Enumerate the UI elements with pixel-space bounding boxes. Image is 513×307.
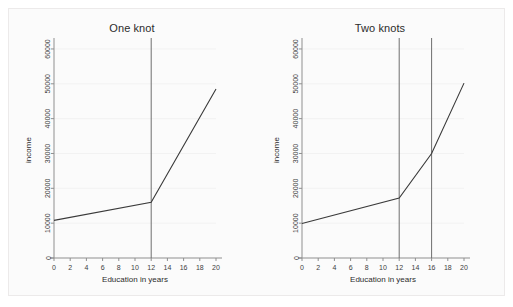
x-tick-label: 12	[147, 264, 155, 271]
x-tick-label: 8	[365, 264, 369, 271]
y-axis-title: income	[24, 137, 33, 163]
y-tick-label: 50000	[45, 74, 52, 94]
x-tick-label: 4	[332, 264, 336, 271]
x-tick-label: 2	[316, 264, 320, 271]
y-tick-label: 40000	[293, 109, 300, 129]
x-axis-title: Education in years	[102, 275, 168, 284]
y-tick-label: 10000	[293, 213, 300, 233]
x-tick-label: 10	[379, 264, 387, 271]
x-tick-label: 14	[412, 264, 420, 271]
x-tick-label: 20	[460, 264, 468, 271]
x-tick-label: 14	[164, 264, 172, 271]
y-tick-label: 30000	[293, 144, 300, 164]
plot-area-one-knot: 0100002000030000400005000060000income024…	[8, 8, 256, 296]
x-tick-label: 2	[68, 264, 72, 271]
plot-area-two-knots: 0100002000030000400005000060000income024…	[256, 8, 504, 296]
x-tick-label: 4	[84, 264, 88, 271]
x-tick-label: 0	[300, 264, 304, 271]
x-tick-label: 16	[428, 264, 436, 271]
figure-canvas: One knot 0100002000030000400005000060000…	[0, 0, 513, 307]
y-tick-label: 60000	[293, 39, 300, 59]
x-tick-label: 18	[196, 264, 204, 271]
y-axis-title: income	[272, 137, 281, 163]
y-tick-label: 20000	[45, 178, 52, 198]
x-tick-label: 10	[131, 264, 139, 271]
x-tick-label: 0	[52, 264, 56, 271]
y-tick-label: 60000	[45, 39, 52, 59]
x-tick-label: 6	[349, 264, 353, 271]
spline-fit-line	[54, 89, 216, 220]
x-tick-label: 20	[212, 264, 220, 271]
y-tick-label: 0	[293, 256, 300, 260]
x-tick-label: 16	[180, 264, 188, 271]
x-tick-label: 8	[117, 264, 121, 271]
y-tick-label: 40000	[45, 109, 52, 129]
y-tick-label: 30000	[45, 144, 52, 164]
x-tick-label: 12	[395, 264, 403, 271]
y-tick-label: 0	[45, 256, 52, 260]
y-tick-label: 20000	[293, 178, 300, 198]
x-tick-label: 6	[101, 264, 105, 271]
y-tick-label: 50000	[293, 74, 300, 94]
x-tick-label: 18	[444, 264, 452, 271]
x-axis-title: Education in years	[350, 275, 416, 284]
panel-two-knots: Two knots 010000200003000040000500006000…	[256, 8, 504, 296]
panel-one-knot: One knot 0100002000030000400005000060000…	[8, 8, 256, 296]
y-tick-label: 10000	[45, 213, 52, 233]
